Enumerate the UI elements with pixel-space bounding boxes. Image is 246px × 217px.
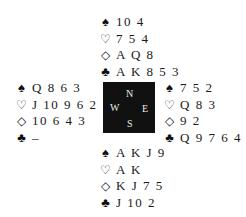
east-diamonds: ◇ 9 2 bbox=[162, 113, 242, 130]
west-spades: ♠ Q 8 6 3 bbox=[14, 80, 98, 97]
diamond-icon: ◇ bbox=[98, 47, 113, 64]
north-spades: ♠ 10 4 bbox=[98, 14, 180, 31]
south-hearts-cards: A K bbox=[116, 162, 142, 179]
heart-icon: ♡ bbox=[162, 97, 177, 114]
heart-icon: ♡ bbox=[98, 162, 113, 179]
west-diamonds-cards: 10 6 4 3 bbox=[32, 113, 86, 130]
south-spades-cards: A K J 9 bbox=[116, 145, 166, 162]
north-hearts-cards: 7 5 4 bbox=[116, 31, 150, 48]
diamond-icon: ◇ bbox=[98, 178, 113, 195]
south-hearts: ♡ A K bbox=[98, 162, 166, 179]
spade-icon: ♠ bbox=[98, 145, 113, 162]
spade-icon: ♠ bbox=[98, 14, 113, 31]
compass-west: W bbox=[110, 102, 119, 113]
diamond-icon: ◇ bbox=[14, 113, 29, 130]
heart-icon: ♡ bbox=[14, 97, 29, 114]
north-clubs: ♣ A K 8 5 3 bbox=[98, 64, 180, 81]
east-spades-cards: 7 5 2 bbox=[180, 80, 214, 97]
north-hearts: ♡ 7 5 4 bbox=[98, 31, 180, 48]
compass-table: N W E S bbox=[103, 82, 155, 133]
north-clubs-cards: A K 8 5 3 bbox=[116, 64, 180, 81]
club-icon: ♣ bbox=[162, 130, 177, 147]
compass-north: N bbox=[126, 88, 133, 99]
club-icon: ♣ bbox=[98, 195, 113, 212]
north-spades-cards: 10 4 bbox=[116, 14, 145, 31]
heart-icon: ♡ bbox=[98, 31, 113, 48]
club-icon: ♣ bbox=[98, 64, 113, 81]
east-clubs: ♣ Q 9 7 6 4 bbox=[162, 130, 242, 147]
east-hand: ♠ 7 5 2 ♡ Q 8 3 ◇ 9 2 ♣ Q 9 7 6 4 bbox=[162, 80, 242, 146]
west-clubs: ♣ – bbox=[14, 130, 98, 147]
west-hearts: ♡ J 10 9 6 2 bbox=[14, 97, 98, 114]
west-diamonds: ◇ 10 6 4 3 bbox=[14, 113, 98, 130]
west-hearts-cards: J 10 9 6 2 bbox=[32, 97, 98, 114]
north-diamonds: ◇ A Q 8 bbox=[98, 47, 180, 64]
south-diamonds-cards: K J 7 5 bbox=[116, 178, 164, 195]
compass-south: S bbox=[127, 118, 133, 129]
south-hand: ♠ A K J 9 ♡ A K ◇ K J 7 5 ♣ J 10 2 bbox=[98, 145, 166, 211]
east-clubs-cards: Q 9 7 6 4 bbox=[180, 130, 242, 147]
south-diamonds: ◇ K J 7 5 bbox=[98, 178, 166, 195]
east-hearts: ♡ Q 8 3 bbox=[162, 97, 242, 114]
west-hand: ♠ Q 8 6 3 ♡ J 10 9 6 2 ◇ 10 6 4 3 ♣ – bbox=[14, 80, 98, 146]
south-clubs-cards: J 10 2 bbox=[116, 195, 156, 212]
east-diamonds-cards: 9 2 bbox=[180, 113, 201, 130]
west-spades-cards: Q 8 6 3 bbox=[32, 80, 81, 97]
club-icon: ♣ bbox=[14, 130, 29, 147]
north-diamonds-cards: A Q 8 bbox=[116, 47, 155, 64]
compass-east: E bbox=[142, 103, 148, 114]
south-clubs: ♣ J 10 2 bbox=[98, 195, 166, 212]
spade-icon: ♠ bbox=[162, 80, 177, 97]
south-spades: ♠ A K J 9 bbox=[98, 145, 166, 162]
diamond-icon: ◇ bbox=[162, 113, 177, 130]
west-clubs-cards: – bbox=[32, 130, 40, 147]
east-spades: ♠ 7 5 2 bbox=[162, 80, 242, 97]
spade-icon: ♠ bbox=[14, 80, 29, 97]
east-hearts-cards: Q 8 3 bbox=[180, 97, 216, 114]
north-hand: ♠ 10 4 ♡ 7 5 4 ◇ A Q 8 ♣ A K 8 5 3 bbox=[98, 14, 180, 80]
